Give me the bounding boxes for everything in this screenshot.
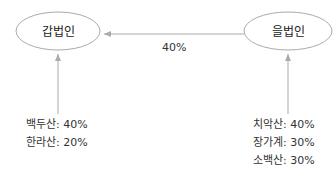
shareholder-item: 소백산: 30%: [253, 152, 315, 170]
gap-shareholders: 백두산: 40% 한라산: 20%: [26, 116, 88, 152]
shareholder-item: 한라산: 20%: [26, 134, 88, 152]
node-gap-label: 갑법인: [16, 22, 100, 39]
node-eul-label: 을법인: [244, 22, 332, 39]
shareholder-item: 치악산: 40%: [253, 116, 315, 134]
eul-shareholders: 치악산: 40% 장가계: 30% 소백산: 30%: [253, 116, 315, 170]
shareholder-item: 백두산: 40%: [26, 116, 88, 134]
edge-eul-to-gap-label: 40%: [162, 41, 186, 54]
shareholder-item: 장가계: 30%: [253, 134, 315, 152]
